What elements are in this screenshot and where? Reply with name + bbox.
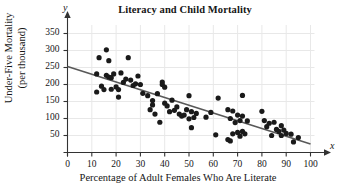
data-point (288, 132, 293, 137)
data-point (208, 110, 213, 115)
data-points (94, 47, 301, 144)
data-point (225, 107, 230, 112)
data-point (118, 70, 123, 75)
x-tick-label: 90 (276, 159, 296, 169)
data-point (228, 116, 233, 121)
data-point (230, 131, 235, 136)
data-point (184, 107, 189, 112)
data-point (165, 103, 170, 108)
y-tick-label: 150 (36, 95, 60, 105)
data-point (291, 139, 296, 144)
x-tick-label: 80 (252, 159, 272, 169)
y-tick-label: 50 (36, 129, 60, 139)
data-point (140, 91, 145, 96)
data-point (279, 123, 284, 128)
data-point (271, 120, 276, 125)
data-point (111, 71, 116, 76)
y-tick-label: 300 (36, 44, 60, 54)
data-point (126, 55, 131, 60)
data-point (213, 132, 218, 137)
data-point (94, 71, 99, 76)
scatter-plot-figure: Literacy and Child Mortality Under-Five … (0, 0, 345, 193)
data-point (194, 111, 199, 116)
data-point (279, 133, 284, 138)
data-point (116, 94, 121, 99)
data-point (240, 93, 245, 98)
x-tick-label: 10 (82, 159, 102, 169)
data-point (267, 121, 272, 126)
x-tick-label: 30 (130, 159, 150, 169)
data-point (203, 115, 208, 120)
data-point (186, 93, 191, 98)
data-point (262, 118, 267, 123)
data-point (284, 131, 289, 136)
data-point (296, 135, 301, 140)
data-point (162, 85, 167, 90)
y-axis-title-line-1: Under-Five Mortality (2, 0, 15, 118)
data-point (186, 116, 191, 121)
y-axis-title: Under-Five Mortality (per thousand) (2, 0, 36, 118)
data-point (104, 47, 109, 52)
data-point (230, 108, 235, 113)
data-point (169, 98, 174, 103)
x-tick-label: 20 (106, 159, 126, 169)
data-point (245, 118, 250, 123)
x-tick-label: 50 (179, 159, 199, 169)
data-point (157, 120, 162, 125)
y-tick-label: 100 (36, 112, 60, 122)
x-axis-title: Percentage of Adult Females Who Are Lite… (38, 172, 318, 183)
y-axis-variable-label: y (63, 2, 67, 13)
data-point (150, 102, 155, 107)
x-tick-label: 60 (203, 159, 223, 169)
y-axis-title-line-2: (per thousand) (15, 0, 28, 118)
data-point (182, 113, 187, 118)
chart-title: Literacy and Child Mortality (90, 4, 280, 15)
data-point (189, 109, 194, 114)
y-tick-label: 350 (36, 27, 60, 37)
data-point (101, 87, 106, 92)
x-tick-label: 70 (228, 159, 248, 169)
data-point (94, 89, 99, 94)
data-point (189, 125, 194, 130)
data-point (259, 109, 264, 114)
data-point (148, 107, 153, 112)
data-point (216, 96, 221, 101)
y-tick-label: 250 (36, 61, 60, 71)
x-tick-label: 100 (301, 159, 321, 169)
data-point (174, 104, 179, 109)
data-point (242, 131, 247, 136)
data-point (237, 134, 242, 139)
x-axis-variable-label: x (330, 140, 334, 151)
data-point (233, 120, 238, 125)
data-point (128, 77, 133, 82)
data-point (155, 91, 160, 96)
data-point (167, 109, 172, 114)
data-point (123, 76, 128, 81)
data-point (96, 55, 101, 60)
data-point (145, 93, 150, 98)
data-point (135, 73, 140, 78)
data-point (138, 82, 143, 87)
x-tick-label: 40 (155, 159, 175, 169)
data-point (133, 81, 138, 86)
data-point (152, 111, 157, 116)
data-point (237, 118, 242, 123)
y-tick-label: 200 (36, 78, 60, 88)
x-tick-label: 0 (58, 159, 78, 169)
data-point (235, 113, 240, 118)
data-point (106, 58, 111, 63)
data-point (269, 133, 274, 138)
data-point (116, 87, 121, 92)
data-point (228, 138, 233, 143)
data-point (240, 114, 245, 119)
data-point (109, 87, 114, 92)
